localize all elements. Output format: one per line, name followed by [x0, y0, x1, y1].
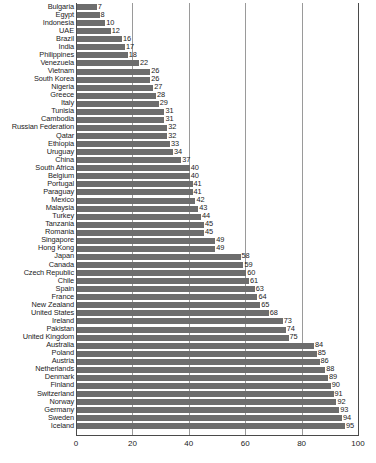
- bar: [77, 93, 156, 99]
- bar: [77, 4, 97, 10]
- bar-row: Iceland95: [0, 422, 376, 430]
- bar: [77, 36, 122, 42]
- x-tick-label: 60: [241, 439, 250, 449]
- bar: [77, 69, 150, 75]
- bar: [77, 302, 260, 308]
- bar: [77, 383, 331, 389]
- bar: [77, 399, 336, 405]
- bar: [77, 270, 246, 276]
- bar: [77, 20, 105, 26]
- bar-value-label: 45: [205, 228, 213, 237]
- bar: [77, 375, 328, 381]
- bar: [77, 60, 139, 66]
- bar: [77, 222, 204, 228]
- bar: [77, 85, 153, 91]
- bar: [77, 173, 190, 179]
- bar: [77, 254, 241, 260]
- bar: [77, 230, 204, 236]
- bar: [77, 101, 159, 107]
- x-tick-label: 0: [74, 439, 78, 449]
- bar: [77, 318, 283, 324]
- category-label: Iceland: [0, 422, 74, 431]
- bar: [77, 367, 325, 373]
- bar: [77, 117, 164, 123]
- bar: [77, 28, 111, 34]
- bar: [77, 310, 269, 316]
- x-tick-label: 20: [128, 439, 137, 449]
- bar: [77, 407, 339, 413]
- bar: [77, 423, 345, 429]
- bar: [77, 141, 170, 147]
- x-tick-label: 40: [184, 439, 193, 449]
- bar: [77, 286, 255, 292]
- bar-value-label: 37: [182, 156, 190, 165]
- x-axis-line: [76, 435, 359, 436]
- bar: [77, 238, 215, 244]
- bar: [77, 246, 215, 252]
- bar: [77, 343, 314, 349]
- bar: [77, 262, 243, 268]
- bar: [77, 165, 190, 171]
- bar: [77, 391, 334, 397]
- x-tick-label: 80: [297, 439, 306, 449]
- bar-value-label: 22: [140, 59, 148, 68]
- bar-rows: Bulgaria7Egypt8Indonesia10UAE12Brazil16I…: [0, 3, 376, 430]
- bar: [77, 351, 317, 357]
- bar: [77, 149, 173, 155]
- bar: [77, 294, 257, 300]
- bar: [77, 198, 195, 204]
- bar-value-label: 65: [261, 301, 269, 310]
- bar: [77, 359, 320, 365]
- bar: [77, 189, 193, 195]
- bar: [77, 109, 164, 115]
- bar: [77, 133, 167, 139]
- x-tick-label: 100: [351, 439, 364, 449]
- bar: [77, 214, 201, 220]
- bar-value-label: 75: [290, 333, 298, 342]
- bar-value-label: 95: [346, 422, 354, 431]
- bar: [77, 327, 286, 333]
- bar: [77, 44, 125, 50]
- bar: [77, 335, 289, 341]
- bar-value-label: 68: [270, 309, 278, 318]
- bar-value-label: 34: [174, 148, 182, 157]
- bar-value-label: 12: [112, 27, 120, 36]
- bar-chart: Bulgaria7Egypt8Indonesia10UAE12Brazil16I…: [0, 0, 376, 463]
- bar-value-label: 8: [101, 11, 105, 20]
- bar: [77, 278, 249, 284]
- bar: [77, 12, 100, 18]
- bar: [77, 52, 128, 58]
- bar-value-label: 49: [216, 244, 224, 253]
- bar: [77, 206, 198, 212]
- bar: [77, 77, 150, 83]
- bar-value-label: 18: [129, 51, 137, 60]
- bar: [77, 125, 167, 131]
- plot-area: Bulgaria7Egypt8Indonesia10UAE12Brazil16I…: [0, 0, 376, 463]
- bar: [77, 157, 181, 163]
- bar: [77, 181, 193, 187]
- bar: [77, 415, 342, 421]
